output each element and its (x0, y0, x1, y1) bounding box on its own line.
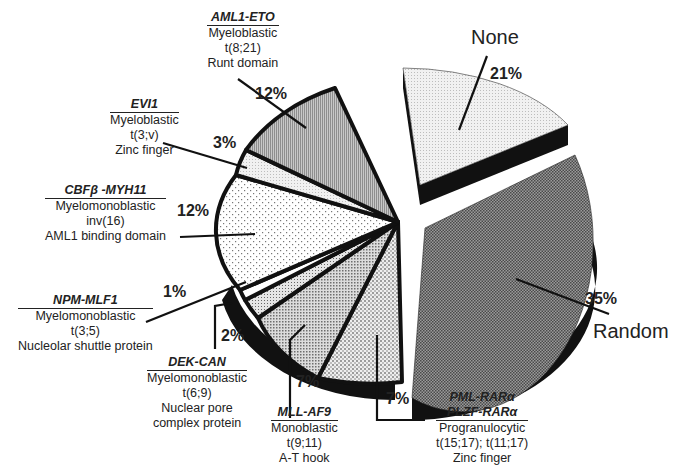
gene-name-2: PLZF-RARα (436, 405, 528, 421)
label-dek-can: DEK-CAN Myelomonoblastic t(6;9) Nuclear … (147, 355, 247, 431)
label-none: None (471, 26, 519, 49)
pct-evi1: 3% (213, 134, 236, 152)
pct-none: 21% (490, 65, 522, 83)
gene-name: EVI1 (110, 97, 179, 113)
label-pml-rara: PML-RARα PLZF-RARα Progranulocytic t(15;… (436, 390, 528, 466)
gene-name: AML1-ETO (207, 10, 279, 26)
gene-name: CBFβ -MYH11 (45, 183, 166, 199)
pct-npm-mlf1: 1% (163, 283, 186, 301)
gene-name: PML-RARα (436, 390, 528, 405)
gene-name: MLL-AF9 (271, 405, 338, 421)
label-evi1: EVI1 Myeloblastic t(3;v) Zinc finger (110, 97, 179, 158)
pct-mll-af9: 7% (296, 373, 319, 391)
pct-aml1-eto: 12% (255, 85, 287, 103)
label-aml1-eto: AML1-ETO Myeloblastic t(8;21) Runt domai… (207, 10, 279, 71)
label-random: Random (593, 320, 669, 343)
gene-name: NPM-MLF1 (18, 293, 153, 309)
label-mll-af9: MLL-AF9 Monoblastic t(9;11) A-T hook (271, 405, 338, 466)
gene-name: DEK-CAN (147, 355, 247, 371)
pct-pml-rara: 7% (386, 390, 409, 408)
pct-cbfb-myh11: 12% (177, 202, 209, 220)
pct-random: 35% (585, 290, 617, 308)
label-npm-mlf1: NPM-MLF1 Myelomonoblastic t(3;5) Nucleol… (18, 293, 153, 354)
label-cbfb-myh11: CBFβ -MYH11 Myelomonoblastic inv(16) AML… (45, 183, 166, 244)
pct-dek-can: 2% (221, 327, 244, 345)
